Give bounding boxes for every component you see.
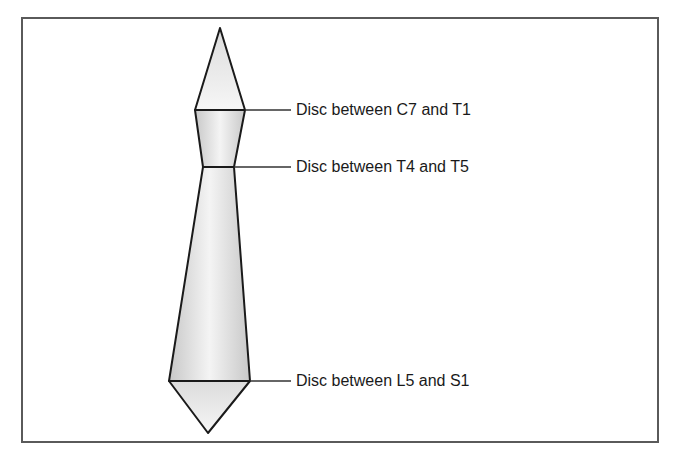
cervical-cone [195,28,245,110]
label-disc-t4-t5: Disc between T4 and T5 [296,159,469,175]
upper-thoracic-segment [195,110,245,167]
thoracolumbar-segment [169,167,250,381]
label-disc-c7-t1: Disc between C7 and T1 [296,102,471,118]
label-disc-l5-s1: Disc between L5 and S1 [296,373,469,389]
spine-shape [0,0,682,460]
sacral-cone [169,381,250,433]
